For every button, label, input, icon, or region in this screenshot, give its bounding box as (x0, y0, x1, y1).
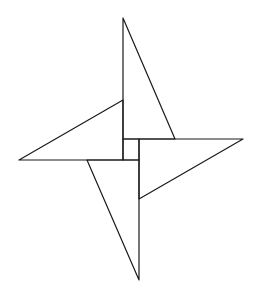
pinwheel-diagram (0, 0, 255, 300)
top-triangle (123, 18, 175, 139)
bottom-triangle (87, 160, 139, 280)
left-triangle (19, 100, 123, 160)
center-square (123, 139, 139, 160)
right-triangle (139, 139, 243, 199)
